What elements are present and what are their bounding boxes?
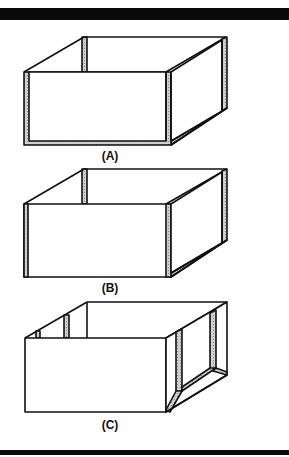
panel-label-b: (B) bbox=[80, 281, 140, 295]
box-b bbox=[24, 169, 227, 277]
box-c bbox=[25, 302, 227, 412]
panel-label-c: (C) bbox=[80, 418, 140, 432]
box-a bbox=[24, 37, 227, 145]
panel-label-a: (A) bbox=[80, 149, 140, 163]
box-figure bbox=[0, 0, 289, 457]
bottom-rule bbox=[0, 450, 289, 455]
